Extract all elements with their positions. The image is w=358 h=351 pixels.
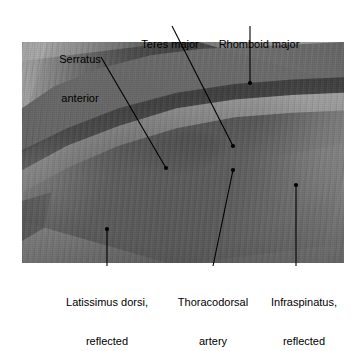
- label-latissimus-dorsi-line1: Latissimus dorsi,: [48, 296, 166, 309]
- label-teres-major: Teres major: [132, 12, 208, 77]
- label-teres-major-line1: Teres major: [132, 38, 208, 51]
- label-infraspinatus-line1: Infraspinatus,: [260, 296, 348, 309]
- label-rhomboid-major: Rhomboid major: [208, 12, 310, 77]
- label-infraspinatus-reflected: Infraspinatus, reflected: [260, 270, 348, 351]
- label-thoracodorsal-artery-line1: Thoracodorsal: [166, 296, 260, 309]
- label-latissimus-dorsi-line2: reflected: [48, 335, 166, 348]
- label-rhomboid-major-line1: Rhomboid major: [208, 38, 310, 51]
- label-thoracodorsal-artery-line2: artery: [166, 335, 260, 348]
- label-serratus-anterior-line1: Serratus: [42, 53, 118, 66]
- label-serratus-anterior-line2: anterior: [42, 92, 118, 105]
- label-serratus-anterior: Serratus anterior: [42, 27, 118, 131]
- label-latissimus-dorsi-reflected: Latissimus dorsi, reflected: [48, 270, 166, 351]
- label-infraspinatus-line2: reflected: [260, 335, 348, 348]
- label-thoracodorsal-artery: Thoracodorsal artery: [166, 270, 260, 351]
